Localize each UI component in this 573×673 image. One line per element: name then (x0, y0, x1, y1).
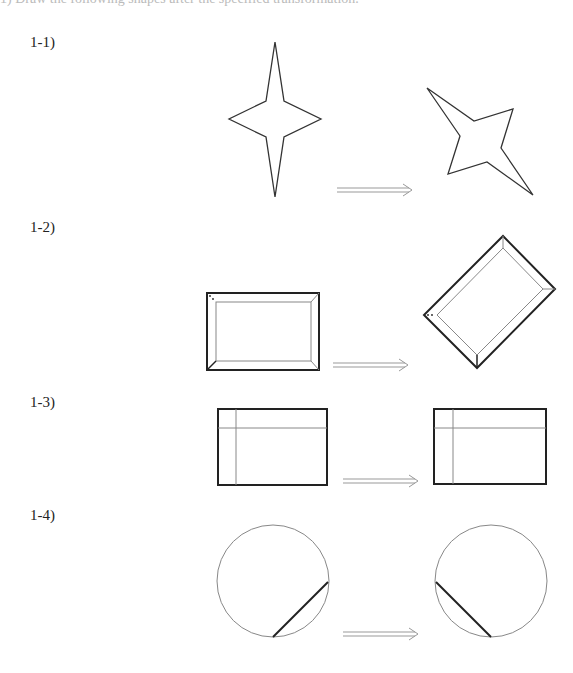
star-rotated (427, 88, 533, 195)
transform-arrow-4 (343, 628, 418, 640)
transform-arrow-1 (337, 184, 412, 196)
transform-arrow-2 (333, 359, 408, 371)
beveled-rect-rotated (424, 236, 555, 368)
grid-rect-original (218, 409, 327, 485)
circle-chord-original (217, 525, 329, 637)
grid-rect-transformed (434, 409, 546, 484)
transform-arrow-3 (343, 475, 418, 487)
beveled-rect-original (207, 293, 319, 370)
star-original (229, 42, 321, 197)
figures-canvas (0, 0, 573, 673)
circle-chord-reflected (435, 525, 547, 637)
